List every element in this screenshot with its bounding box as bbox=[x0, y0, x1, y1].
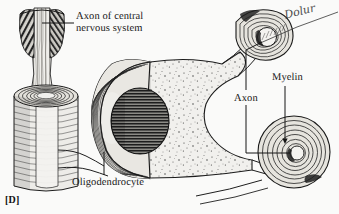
label-axon-cns-line2: nervous system bbox=[76, 23, 142, 34]
label-axon-of-central-nervous-system: Axon of centralnervous system bbox=[76, 11, 143, 35]
panel-letter: [D] bbox=[5, 194, 19, 205]
oligodendrocyte-illustration bbox=[0, 0, 339, 214]
label-oligodendrocyte: Oligodendrocyte bbox=[72, 177, 144, 189]
label-axon: Axon bbox=[234, 93, 258, 105]
label-myelin: Myelin bbox=[272, 72, 303, 84]
figure-panel: Axon of centralnervous system Oligodendr… bbox=[0, 0, 339, 214]
label-axon-cns-line1: Axon of central bbox=[76, 11, 143, 22]
